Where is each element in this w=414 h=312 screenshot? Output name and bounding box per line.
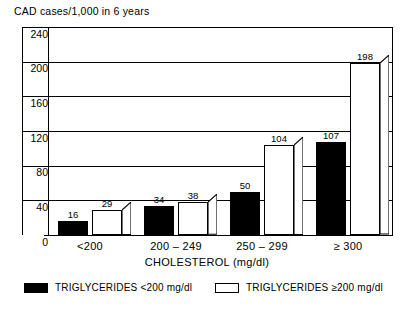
bar-front-face [92,210,122,235]
bar-value-label: 104 [258,133,300,144]
x-axis-line [44,235,393,236]
bar-black-1 [144,206,174,235]
bar-white-2 [264,145,294,235]
chart-title: CAD cases/1,000 in 6 years [14,5,149,17]
bar-value-label: 16 [52,209,94,220]
bar-front-face [178,202,208,235]
legend-item-triglycerides-high: TRIGLYCERIDES ≥200 mg/dl [215,282,383,293]
bar-front-face [230,192,260,235]
y-tick-label: 120 [22,133,48,144]
bar-front-face [264,145,294,235]
bar-black-0 [58,221,88,235]
bar-value-label: 50 [224,180,266,191]
bar-value-label: 38 [172,190,214,201]
y-tick-label: 40 [22,202,48,213]
legend-item-triglycerides-low: TRIGLYCERIDES <200 mg/dl [24,282,192,293]
bar-white-1 [178,202,208,235]
bar-black-2 [230,192,260,235]
y-tick-label: 160 [22,98,48,109]
bar-value-label: 107 [310,130,352,141]
legend-swatch-black [24,283,48,293]
bar-front-face [350,63,380,235]
bar-black-3 [316,142,346,235]
bar-front-face [316,142,346,235]
bar-value-label: 198 [344,51,386,62]
legend-swatch-white [215,283,239,293]
bar-front-face [144,206,174,235]
legend-label-triglycerides-high: TRIGLYCERIDES ≥200 mg/dl [246,282,383,293]
bar-white-0 [92,210,122,235]
bar-side-face [294,137,303,235]
bar-value-label: 29 [86,198,128,209]
x-axis-title: CHOLESTEROL (mg/dl) [0,256,414,268]
bar-front-face [58,221,88,235]
bar-chart: CAD cases/1,000 in 6 years 0408012016020… [0,0,414,312]
y-tick-label: 240 [22,29,48,40]
y-tick-label: 200 [22,63,48,74]
chart-legend: TRIGLYCERIDES <200 mg/dl TRIGLYCERIDES ≥… [0,280,414,300]
x-tick-label-3: ≥ 300 [294,240,402,252]
bar-side-face [380,55,389,235]
bar-white-3 [350,63,380,235]
y-label-column-rule [22,27,23,235]
legend-label-triglycerides-low: TRIGLYCERIDES <200 mg/dl [55,282,192,293]
y-tick-label: 80 [22,167,48,178]
